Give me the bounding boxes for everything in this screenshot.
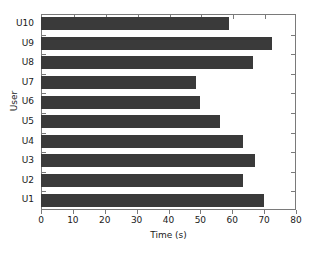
x-tick-mark: [137, 210, 138, 214]
bar-u5: [41, 112, 296, 132]
x-axis-ticks: 01020304050607080: [41, 210, 296, 228]
x-tick-label-30: 30: [124, 215, 150, 225]
y-tick-label-u9: U9: [22, 34, 34, 54]
y-tick-label-u5: U5: [22, 112, 34, 132]
y-tick-label-u6: U6: [22, 92, 34, 112]
x-tick-label-70: 70: [251, 215, 277, 225]
bar-u8: [41, 53, 296, 73]
bar-fill: [41, 135, 243, 148]
bar-u2: [41, 171, 296, 191]
bar-fill: [41, 154, 255, 167]
y-tick-label-u2: U2: [22, 171, 34, 191]
x-tick-mark: [105, 210, 106, 214]
x-tick-label-50: 50: [187, 215, 213, 225]
bar-fill: [41, 17, 229, 30]
bar-chart: User U1U2U3U4U5U6U7U8U9U10 0102030405060…: [0, 0, 312, 253]
x-tick-mark: [73, 210, 74, 214]
bar-fill: [41, 115, 220, 128]
x-tick-label-60: 60: [219, 215, 245, 225]
bar-fill: [41, 56, 253, 69]
bar-fill: [41, 174, 243, 187]
x-tick-mark: [200, 210, 201, 214]
x-tick-mark: [41, 210, 42, 214]
y-tick-label-u7: U7: [22, 73, 34, 93]
bar-u7: [41, 73, 296, 93]
x-tick-mark: [169, 210, 170, 214]
bar-u3: [41, 151, 296, 171]
bar-fill: [41, 76, 196, 89]
y-tick-label-u8: U8: [22, 53, 34, 73]
bar-u4: [41, 132, 296, 152]
bar-u9: [41, 34, 296, 54]
x-tick-mark: [264, 210, 265, 214]
x-tick-label-20: 20: [92, 215, 118, 225]
y-tick-label-u10: U10: [16, 14, 34, 34]
bar-fill: [41, 194, 264, 207]
y-tick-label-u4: U4: [22, 132, 34, 152]
y-tick-label-u3: U3: [22, 151, 34, 171]
bar-u10: [41, 14, 296, 34]
x-tick-label-0: 0: [28, 215, 54, 225]
x-axis-title: Time (s): [41, 230, 296, 240]
bar-fill: [41, 37, 272, 50]
x-tick-label-80: 80: [283, 215, 309, 225]
x-tick-mark: [232, 210, 233, 214]
bars-container: [41, 14, 296, 210]
bar-fill: [41, 96, 200, 109]
bar-u6: [41, 92, 296, 112]
x-tick-label-10: 10: [60, 215, 86, 225]
x-tick-mark: [296, 210, 297, 214]
bar-u1: [41, 190, 296, 210]
x-tick-label-40: 40: [156, 215, 182, 225]
y-axis-labels: U1U2U3U4U5U6U7U8U9U10: [0, 14, 38, 210]
y-tick-label-u1: U1: [22, 190, 34, 210]
